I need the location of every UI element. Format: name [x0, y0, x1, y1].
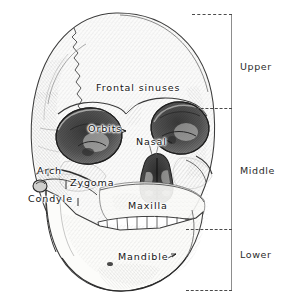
zone-tick-middle-lower: [186, 229, 232, 230]
label-frontal-sinuses: Frontal sinuses: [96, 83, 180, 93]
label-condyle: Condyle: [28, 194, 73, 204]
label-arch: Arch: [37, 166, 62, 176]
zone-label-upper: Upper: [240, 61, 272, 72]
label-zygoma: Zygoma: [70, 178, 114, 188]
label-nasal: Nasal: [136, 137, 167, 147]
zone-tick-upper-middle: [196, 108, 232, 109]
label-mandible: Mandible: [118, 252, 168, 262]
zone-label-middle: Middle: [240, 165, 275, 176]
zone-tick-top: [192, 14, 232, 15]
zone-bracket-spine: [231, 14, 232, 291]
zone-tick-bottom: [186, 290, 232, 291]
caption-strip: [0, 295, 284, 302]
skull-anatomy-figure: Frontal sinuses Orbits Nasal Arch Zygoma…: [0, 0, 284, 302]
zone-label-lower: Lower: [240, 249, 271, 260]
label-maxilla: Maxilla: [128, 201, 168, 211]
label-orbits: Orbits: [88, 124, 122, 134]
